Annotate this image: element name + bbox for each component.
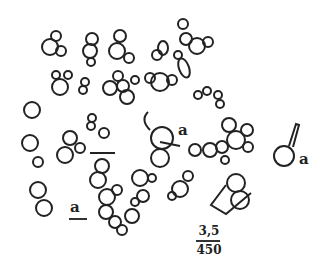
label-a-right: a bbox=[299, 152, 309, 167]
scale-fraction-bar bbox=[196, 240, 220, 242]
yeast-cell-illustration: a a a 3,5 450 bbox=[0, 0, 329, 269]
cells-drawing bbox=[0, 0, 329, 269]
label-a-underline bbox=[69, 218, 87, 220]
label-a-center: a bbox=[178, 123, 188, 138]
scale-numerator: 3,5 bbox=[189, 224, 229, 238]
label-a-bottom-left: a bbox=[70, 200, 80, 215]
scale-denominator: 450 bbox=[189, 243, 229, 257]
